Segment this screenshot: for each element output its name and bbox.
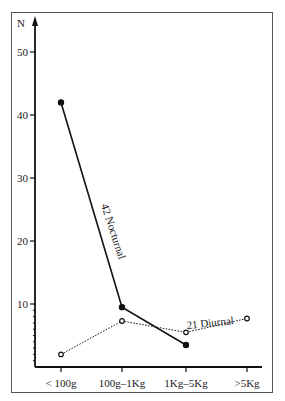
diurnal-point	[245, 316, 250, 321]
y-tick-label: 50	[17, 46, 29, 58]
line-chart: N 1020304050 < 100g100g–1Kg1Kg–5Kg>5Kg 4…	[0, 0, 285, 401]
y-tick-label: 40	[17, 109, 29, 121]
diurnal-point	[59, 352, 64, 357]
x-tick-label: >5Kg	[234, 377, 260, 389]
nocturnal-point	[183, 342, 188, 347]
x-tick-label: 1Kg–5Kg	[164, 377, 208, 389]
diurnal-label: 21 Diurnal	[186, 314, 234, 331]
x-tick-label: < 100g	[46, 377, 77, 389]
x-tick-label: 100g–1Kg	[99, 377, 146, 389]
y-axis-label: N	[17, 17, 25, 29]
y-tick-label: 10	[17, 298, 29, 310]
nocturnal-point	[58, 100, 63, 105]
nocturnal-point	[119, 305, 124, 310]
y-axis-arrow-icon	[32, 16, 38, 26]
y-ticks: 1020304050	[17, 46, 35, 310]
diurnal-point	[120, 319, 125, 324]
nocturnal-label: 42 Nocturnal	[99, 202, 128, 261]
y-tick-label: 20	[17, 235, 29, 247]
y-tick-label: 30	[17, 172, 29, 184]
x-ticks: < 100g100g–1Kg1Kg–5Kg>5Kg	[46, 367, 261, 389]
